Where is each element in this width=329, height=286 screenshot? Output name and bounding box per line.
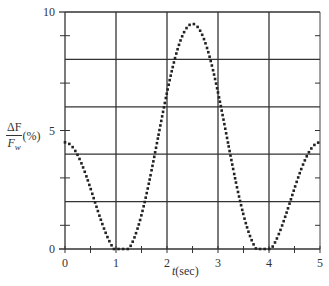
data-point <box>282 220 285 223</box>
data-point <box>149 174 152 177</box>
data-point <box>305 155 308 158</box>
data-point <box>288 202 291 205</box>
data-point <box>227 141 230 144</box>
data-point <box>278 233 281 236</box>
data-point <box>247 230 250 233</box>
data-point <box>238 195 241 198</box>
data-point <box>173 61 176 64</box>
data-point <box>229 154 232 157</box>
x-tick-label: 3 <box>215 256 221 270</box>
data-point <box>241 209 244 212</box>
data-point <box>310 147 313 150</box>
data-point <box>212 69 215 72</box>
y-label-unit: (%) <box>22 129 40 143</box>
data-point <box>298 172 301 175</box>
data-point <box>117 248 120 251</box>
data-point <box>98 214 101 217</box>
data-point <box>78 158 81 161</box>
data-point <box>249 235 252 238</box>
data-point <box>147 182 150 185</box>
data-point <box>308 151 311 154</box>
data-point <box>164 102 167 105</box>
data-point <box>152 160 155 163</box>
data-point <box>171 66 174 69</box>
data-point <box>294 185 297 188</box>
data-point <box>291 194 294 197</box>
data-point <box>188 24 191 27</box>
data-point <box>235 181 238 184</box>
data-point <box>234 177 237 180</box>
data-point <box>239 200 242 203</box>
data-point <box>122 248 125 251</box>
data-point <box>221 114 224 117</box>
data-point <box>313 144 316 147</box>
data-point <box>162 111 165 114</box>
data-point <box>166 88 169 91</box>
data-point <box>219 100 222 103</box>
data-point <box>144 196 147 199</box>
data-point <box>244 222 247 225</box>
data-point <box>217 91 220 94</box>
data-point <box>148 178 151 181</box>
data-point <box>74 150 77 153</box>
y-tick-label: 10 <box>43 5 55 19</box>
data-point <box>165 97 168 100</box>
data-point <box>290 198 293 201</box>
data-point <box>97 210 100 213</box>
data-point <box>226 137 229 140</box>
data-point <box>224 127 227 130</box>
x-axis-label: t(sec) <box>172 264 199 279</box>
data-point <box>250 239 253 242</box>
data-point <box>126 248 129 251</box>
data-point <box>181 35 184 38</box>
data-point <box>169 74 172 77</box>
data-point <box>236 186 239 189</box>
data-point <box>222 118 225 121</box>
data-point <box>201 34 204 37</box>
data-point <box>208 55 211 58</box>
data-point <box>146 187 149 190</box>
data-point <box>271 245 274 248</box>
data-point <box>193 23 196 26</box>
data-point <box>143 201 146 204</box>
data-point <box>207 51 210 54</box>
data-point <box>163 106 166 109</box>
x-tick-label: 4 <box>266 256 272 270</box>
data-point <box>285 211 288 214</box>
data-point <box>89 188 92 191</box>
data-point <box>175 52 178 55</box>
data-point <box>135 232 138 235</box>
data-point <box>168 79 171 82</box>
data-point <box>176 48 179 51</box>
data-point <box>297 176 300 179</box>
data-point <box>199 29 202 32</box>
data-point <box>170 70 173 73</box>
data-point <box>209 60 212 63</box>
data-point <box>216 87 219 90</box>
data-point <box>101 223 104 226</box>
data-point <box>227 145 230 148</box>
data-point <box>110 244 113 247</box>
data-point <box>153 156 156 159</box>
data-point <box>133 236 136 239</box>
data-point <box>150 169 153 172</box>
data-point <box>108 240 111 243</box>
data-point <box>91 193 94 196</box>
data-point <box>113 248 116 251</box>
data-point <box>80 162 83 165</box>
data-point <box>160 120 163 123</box>
data-point <box>233 173 236 176</box>
data-point <box>85 175 88 178</box>
data-point <box>255 247 258 250</box>
data-point <box>242 213 245 216</box>
data-point <box>246 226 249 229</box>
data-point <box>68 143 71 146</box>
data-point <box>138 223 141 226</box>
data-point <box>287 207 290 210</box>
data-point <box>165 92 168 95</box>
y-label-denominator: Fw <box>6 136 22 152</box>
data-point <box>103 227 106 230</box>
data-point <box>252 243 255 246</box>
data-point <box>223 123 226 126</box>
data-point <box>154 151 157 154</box>
